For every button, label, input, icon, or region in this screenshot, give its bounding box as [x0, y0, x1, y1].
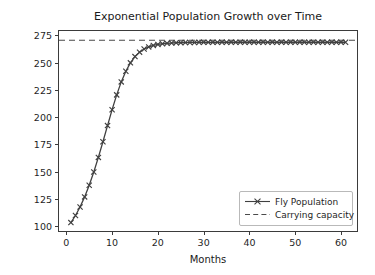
- x-tick-label: 60: [335, 237, 347, 248]
- y-tick-mark: [55, 172, 59, 173]
- legend-line-sample-solid: [244, 196, 271, 207]
- chart-title: Exponential Population Growth over Time: [58, 10, 358, 23]
- y-tick-mark: [55, 117, 59, 118]
- legend-item-fly-population[interactable]: Fly Population: [244, 195, 348, 208]
- legend-label: Fly Population: [275, 197, 338, 207]
- x-axis-label: Months: [58, 254, 358, 265]
- y-tick-mark: [55, 35, 59, 36]
- x-tick-mark: [341, 231, 342, 235]
- chart-figure: Exponential Population Growth over Time …: [0, 0, 375, 275]
- x-tick-mark: [112, 231, 113, 235]
- y-tick-mark: [55, 199, 59, 200]
- x-tick-mark: [204, 231, 205, 235]
- x-tick-mark: [66, 231, 67, 235]
- y-tick-mark: [55, 90, 59, 91]
- x-tick-mark: [158, 231, 159, 235]
- y-tick-label: 150: [12, 166, 52, 177]
- x-tick-label: 0: [63, 237, 69, 248]
- y-tick-label: 200: [12, 112, 52, 123]
- y-tick-label: 175: [12, 139, 52, 150]
- x-tick-mark: [295, 231, 296, 235]
- x-tick-label: 30: [198, 237, 210, 248]
- y-tick-label: 250: [12, 57, 52, 68]
- x-tick-label: 10: [106, 237, 118, 248]
- x-tick-mark: [249, 231, 250, 235]
- legend-item-carrying-capacity[interactable]: Carrying capacity: [244, 208, 348, 221]
- y-tick-mark: [55, 144, 59, 145]
- y-tick-mark: [55, 63, 59, 64]
- y-tick-label: 100: [12, 221, 52, 232]
- y-tick-label: 275: [12, 30, 52, 41]
- x-tick-label: 50: [289, 237, 301, 248]
- y-tick-label: 225: [12, 84, 52, 95]
- legend-label: Carrying capacity: [275, 210, 354, 220]
- y-tick-label: 125: [12, 193, 52, 204]
- legend-line-sample-dashed: [244, 209, 271, 220]
- x-tick-label: 20: [152, 237, 164, 248]
- x-tick-label: 40: [243, 237, 255, 248]
- y-tick-mark: [55, 226, 59, 227]
- chart-legend[interactable]: Fly Population Carrying capacity: [239, 191, 353, 226]
